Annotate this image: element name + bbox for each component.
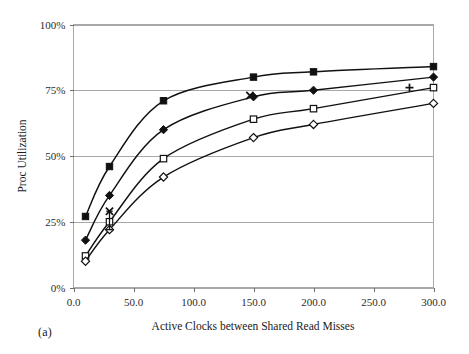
series-filled-square-point-4 — [310, 69, 316, 75]
annotations-layer — [106, 84, 414, 215]
chart-canvas: 0.050.0100.0150.0200.0250.0300.0 0%25%50… — [0, 0, 469, 354]
series-filled-diamond-line — [86, 77, 434, 240]
series-open-diamond — [81, 99, 437, 265]
x-tick-labels: 0.050.0100.0150.0200.0250.0300.0 — [67, 296, 447, 308]
series-filled-diamond-point-5 — [429, 73, 437, 81]
y-tick-label-3: 75% — [45, 84, 65, 96]
y-tick-label-0: 0% — [51, 282, 66, 294]
figure-caption: (a) — [38, 325, 52, 340]
series-filled-diamond-point-1 — [105, 191, 113, 199]
series-filled-square-point-3 — [250, 74, 256, 80]
series-open-diamond-point-4 — [309, 120, 317, 128]
x-tick-label-3: 150.0 — [241, 296, 266, 308]
gridlines — [74, 26, 434, 289]
series-filled-square-line — [86, 67, 434, 217]
x-axis-title: Active Clocks between Shared Read Misses — [152, 320, 355, 332]
data-series-layer — [81, 63, 437, 265]
y-tickmarks — [70, 26, 74, 289]
series-open-diamond-point-3 — [249, 133, 257, 141]
series-open-diamond-point-5 — [429, 99, 437, 107]
series-open-diamond-line — [86, 103, 434, 261]
series-open-square-point-3 — [250, 116, 256, 122]
x-tick-label-1: 50.0 — [124, 296, 144, 308]
x-tick-label-5: 250.0 — [361, 296, 386, 308]
x-tick-label-4: 200.0 — [301, 296, 326, 308]
x-tick-label-6: 300.0 — [421, 296, 446, 308]
y-tick-labels: 0%25%50%75%100% — [40, 19, 66, 294]
series-open-square-point-5 — [430, 84, 436, 90]
series-filled-square-point-0 — [82, 213, 88, 219]
series-filled-diamond-point-0 — [81, 236, 89, 244]
x-tick-label-2: 100.0 — [181, 296, 206, 308]
x-tick-label-0: 0.0 — [67, 296, 81, 308]
figure-panel: 0.050.0100.0150.0200.0250.0300.0 0%25%50… — [0, 0, 469, 354]
series-open-diamond-point-2 — [159, 173, 167, 181]
series-filled-square-point-5 — [430, 63, 436, 69]
series-filled-square — [82, 63, 436, 219]
y-tick-label-2: 50% — [45, 150, 65, 162]
series-open-square-point-2 — [160, 155, 166, 161]
series-filled-diamond — [81, 73, 437, 244]
y-tick-label-1: 25% — [45, 216, 65, 228]
y-axis-title: Proc Utilization — [16, 119, 28, 192]
series-filled-square-point-2 — [160, 98, 166, 104]
series-open-square-point-4 — [310, 105, 316, 111]
series-filled-diamond-point-4 — [309, 86, 317, 94]
series-open-square — [82, 84, 436, 259]
series-filled-square-point-1 — [106, 163, 112, 169]
y-tick-label-4: 100% — [40, 19, 66, 31]
